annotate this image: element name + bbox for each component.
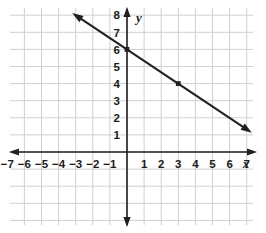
x-tick-label: 3 xyxy=(175,158,181,170)
x-tick-label: −6 xyxy=(18,158,31,170)
x-tick-label: −4 xyxy=(52,158,66,170)
line-start-arrow-icon xyxy=(72,13,83,22)
y-axis-up-arrow-icon xyxy=(123,7,130,17)
x-tick-label: −1 xyxy=(103,158,117,170)
plotted-point-marker xyxy=(125,47,130,52)
graph-canvas: −7−6−5−4−3−2−11234567 12345678 x y xyxy=(0,0,266,233)
x-tick-label: −3 xyxy=(69,158,82,170)
line-segment xyxy=(78,17,246,129)
coordinate-plane-figure: −7−6−5−4−3−2−11234567 12345678 x y xyxy=(0,0,266,233)
x-tick-label: 6 xyxy=(226,158,232,170)
y-axis-label: y xyxy=(134,10,142,25)
x-tick-label: 5 xyxy=(209,158,216,170)
y-tick-label: 8 xyxy=(114,9,121,21)
x-tick-label: −7 xyxy=(1,158,14,170)
plotted-point-marker xyxy=(176,81,181,86)
y-tick-label: 7 xyxy=(114,27,120,39)
y-tick-label: 4 xyxy=(114,78,121,90)
y-tick-label: 2 xyxy=(114,112,120,124)
grid-lines xyxy=(10,8,253,225)
line-end-arrow-icon xyxy=(241,123,252,132)
x-tick-label: 4 xyxy=(192,158,199,170)
y-tick-label: 3 xyxy=(114,95,120,107)
x-axis-tick-labels: −7−6−5−4−3−2−11234567 xyxy=(1,158,250,170)
y-tick-label: 1 xyxy=(114,129,121,141)
x-tick-label: 1 xyxy=(141,158,148,170)
x-tick-label: 2 xyxy=(158,158,164,170)
y-axis-down-arrow-icon xyxy=(123,217,130,227)
x-axis-label: x xyxy=(242,156,250,171)
y-axis-tick-labels: 12345678 xyxy=(114,9,121,141)
y-tick-label: 5 xyxy=(114,61,121,73)
plotted-line-series xyxy=(72,13,252,133)
x-tick-label: −5 xyxy=(35,158,49,170)
x-axis-right-arrow-icon xyxy=(247,148,257,155)
x-tick-label: −2 xyxy=(86,158,99,170)
axes xyxy=(9,7,257,227)
x-axis-left-arrow-icon xyxy=(9,148,19,155)
